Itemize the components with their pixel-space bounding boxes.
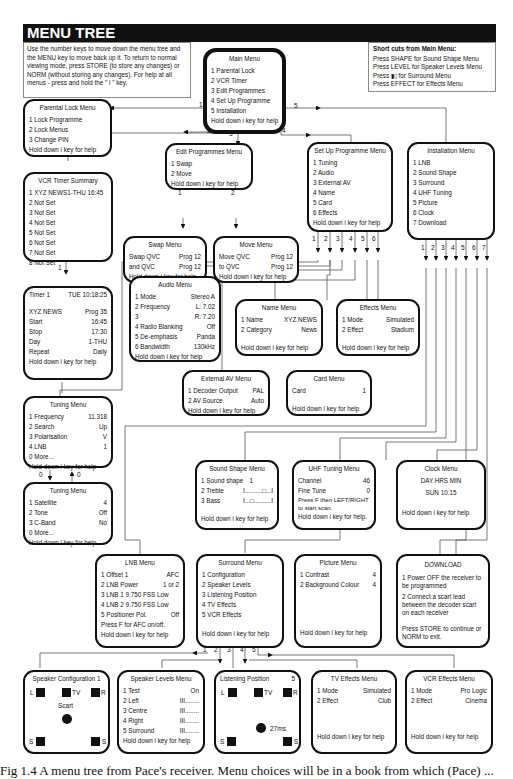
menu-item-download[interactable]: 7 Download — [413, 218, 489, 228]
menu-item-clock[interactable]: 6 Clock — [413, 208, 489, 218]
background-colour-value[interactable]: 4 — [372, 580, 376, 590]
timer-item[interactable]: 1 XYZ NEWS1-THU 16:45 — [29, 188, 107, 198]
speaker-left-icon[interactable] — [36, 688, 45, 697]
menu-item-parental-lock[interactable]: 1 Parental Lock — [211, 66, 278, 76]
tv-mode-value[interactable]: Simulated — [363, 686, 391, 696]
audio-value[interactable]: Stereo A — [191, 292, 215, 302]
menu-item-external-av[interactable]: 3 External AV — [313, 178, 387, 188]
contrast-value[interactable]: 4 — [372, 570, 376, 580]
tuning-more[interactable]: 0 More... — [29, 528, 54, 538]
lnb-1-setting[interactable]: 3 LNB 1 9.750 FSS Low — [101, 590, 169, 600]
swap-to-prog[interactable]: Prog 12 — [179, 262, 201, 272]
menu-item-set-up-programme[interactable]: 4 Set Up Programme — [211, 96, 278, 106]
audio-value[interactable]: Off — [207, 322, 215, 332]
category-value[interactable]: News — [301, 325, 317, 335]
card-value[interactable]: 1 — [362, 386, 366, 396]
menu-item-name[interactable]: 4 Name — [313, 188, 387, 198]
level-bar[interactable]: III........ — [180, 716, 199, 726]
tuning-value[interactable]: 4 — [103, 498, 107, 508]
menu-item-configuration[interactable]: 1 Configuration — [202, 570, 278, 580]
timer-item[interactable]: 4 Not Set — [29, 218, 107, 228]
vcr-effect-value[interactable]: Cinema — [465, 696, 487, 706]
lnb-value[interactable]: AFC — [166, 570, 179, 580]
tv-effect-value[interactable]: Club — [378, 696, 391, 706]
menu-item-sound-shape[interactable]: 2 Sound Shape — [413, 168, 489, 178]
timer-start-value[interactable]: 16:45 — [91, 317, 107, 327]
tuning-more[interactable]: 0 More... — [29, 452, 54, 462]
menu-item-edit-programmes[interactable]: 3 Edit Programmes — [211, 86, 278, 96]
audio-value[interactable]: 130kHz — [194, 342, 215, 352]
menu-item-audio[interactable]: 2 Audio — [313, 168, 387, 178]
name-value[interactable]: XYZ NEWS — [284, 315, 317, 325]
level-bar[interactable]: III........ — [180, 706, 199, 716]
speaker-surround-right-icon[interactable] — [283, 737, 292, 746]
menu-item-vcr-effects[interactable]: 5 VCR Effects — [202, 610, 278, 620]
speaker-right-icon[interactable] — [283, 688, 292, 697]
tuning-value[interactable]: V — [103, 432, 107, 442]
menu-item-lock-menus[interactable]: 2 Lock Menus — [29, 125, 106, 135]
clock-value[interactable]: SUN 10.15 — [402, 488, 480, 498]
speaker-surround-left-icon[interactable] — [227, 737, 236, 746]
menu-item-listening-position[interactable]: 3 Listening Position — [202, 590, 278, 600]
menu-item-lock-programme[interactable]: 1 Lock Programme — [29, 115, 106, 125]
timer-stop-value[interactable]: 17:30 — [91, 327, 107, 337]
timer-item[interactable]: 5 Not Set — [29, 228, 107, 238]
treble-slider[interactable]: I..........□...I — [243, 486, 273, 496]
swap-from-prog[interactable]: Prog 12 — [179, 252, 201, 262]
tuning-value[interactable]: Off — [99, 508, 107, 518]
av-source-value[interactable]: Auto — [251, 396, 264, 406]
menu-item-speaker-levels[interactable]: 2 Speaker Levels — [202, 580, 278, 590]
lnb-value[interactable]: 1 or 2 — [163, 580, 179, 590]
speaker-surround-right-icon[interactable] — [91, 737, 100, 746]
timer-item[interactable]: 2 Not Set — [29, 198, 107, 208]
menu-item-effects[interactable]: 6 Effects — [313, 208, 387, 218]
timer-repeat-value[interactable]: Daily — [93, 347, 107, 357]
move-from-prog[interactable]: Prog 12 — [271, 252, 293, 262]
effects-mode-value[interactable]: Simulated — [386, 315, 414, 325]
menu-item-picture[interactable]: 5 Picture — [413, 198, 489, 208]
bass-slider[interactable]: I...□..........I — [243, 496, 273, 506]
level-value[interactable]: On — [191, 686, 199, 696]
listening-position-value[interactable]: 5 — [291, 674, 295, 684]
timer-item[interactable]: 7 Not Set — [29, 248, 107, 258]
speaker-right-icon[interactable] — [91, 688, 100, 697]
menu-item-surround[interactable]: 3 Surround — [413, 178, 489, 188]
audio-value[interactable]: Panda — [197, 332, 215, 342]
speaker-surround-left-icon[interactable] — [36, 737, 45, 746]
fine-tune-value[interactable]: 0 — [366, 486, 370, 496]
timer-item[interactable]: 8 Not Set — [29, 258, 107, 268]
menu-item-change-pin[interactable]: 3 Change PIN — [29, 135, 106, 145]
effects-effect-value[interactable]: Stadium — [391, 325, 414, 335]
speaker-tv-icon[interactable] — [254, 688, 263, 697]
lnb-value[interactable]: Off — [171, 610, 179, 620]
audio-value[interactable]: L: 7.02 — [196, 302, 215, 312]
tuning-value[interactable]: No — [99, 518, 107, 528]
menu-item-tv-effects[interactable]: 4 TV Effects — [202, 600, 278, 610]
menu-item-installation[interactable]: 5 Installation — [211, 106, 278, 116]
timer-day-value[interactable]: 1-THU — [88, 337, 107, 347]
move-to-prog[interactable]: Prog 12 — [271, 262, 293, 272]
menu-item-vcr-timer[interactable]: 2 VCR Timer — [211, 76, 278, 86]
level-bar[interactable]: III........ — [180, 696, 199, 706]
timer-prog[interactable]: Prog 35 — [85, 307, 107, 317]
menu-item-swap[interactable]: 1 Swap — [171, 159, 247, 169]
lnb-2-setting[interactable]: 4 LNB 2 9.750 FSS Low — [101, 600, 169, 610]
speaker-tv-icon[interactable] — [62, 688, 71, 697]
tuning-value[interactable]: 1 — [103, 442, 107, 452]
vcr-mode-value[interactable]: Pro Logic — [460, 686, 487, 696]
channel-value[interactable]: 46 — [363, 476, 370, 486]
tuning-value[interactable]: Up — [99, 422, 107, 432]
decoder-output-value[interactable]: PAL — [253, 386, 264, 396]
level-bar[interactable]: III........ — [180, 726, 199, 736]
tuning-value[interactable]: 11.318 — [88, 412, 107, 422]
menu-item-lnb[interactable]: 1 LNB — [413, 158, 489, 168]
menu-item-uhf-tuning[interactable]: 4 UHF Tuning — [413, 188, 489, 198]
menu-item-card[interactable]: 5 Card — [313, 198, 387, 208]
menu-item-move[interactable]: 2 Move — [171, 169, 247, 179]
timer-item[interactable]: 6 Not Set — [29, 238, 107, 248]
listener-dot-icon[interactable] — [256, 723, 266, 733]
audio-value[interactable]: R: 7.20 — [195, 312, 215, 322]
timer-item[interactable]: 3 Not Set — [29, 208, 107, 218]
speaker-left-icon[interactable] — [228, 688, 237, 697]
menu-item-tuning[interactable]: 1 Tuning — [313, 158, 387, 168]
